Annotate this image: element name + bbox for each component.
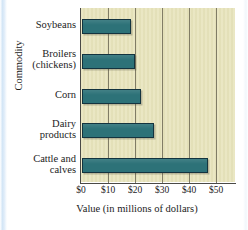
bar [82, 89, 141, 104]
x-axis-tick-label: $30 [155, 185, 169, 195]
bar-highlight [83, 124, 153, 129]
y-axis-tick-label-line: products [2, 129, 76, 140]
gridline [216, 8, 217, 183]
scan-edge-left [0, 0, 7, 230]
gridline [189, 8, 190, 183]
y-axis-tick-label: Cattle andcalves [2, 153, 76, 175]
y-axis-tick-label-line: calves [2, 164, 76, 175]
y-axis-title: Commodity [13, 16, 24, 116]
bar-highlight [83, 159, 207, 164]
x-axis-title: Value (in millions of dollars) [0, 203, 248, 214]
x-axis-tick-label: $20 [128, 185, 142, 195]
scan-edge-right [243, 0, 248, 230]
bar-highlight [83, 20, 130, 25]
x-axis-tick-label: $0 [76, 185, 86, 195]
x-axis-tick-label: $40 [182, 185, 196, 195]
y-axis-tick-label-line: Dairy [2, 118, 76, 129]
x-axis-tick-label: $10 [101, 185, 115, 195]
bar-highlight [83, 55, 134, 60]
bar [82, 19, 131, 34]
bar-chart-figure: SoybeansBroilers(chickens)CornDairyprodu… [0, 0, 248, 230]
bar [82, 158, 208, 173]
y-axis-tick-label-line: Cattle and [2, 153, 76, 164]
bar [82, 123, 154, 138]
bar-highlight [83, 90, 140, 95]
gridline [162, 8, 163, 183]
x-axis-tick-label: $50 [209, 185, 223, 195]
bar [82, 54, 135, 69]
y-axis-tick-label: Dairyproducts [2, 118, 76, 140]
